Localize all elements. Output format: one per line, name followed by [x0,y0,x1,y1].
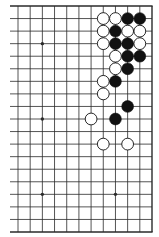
star-point [41,193,44,196]
black-stone [122,38,134,50]
black-stone [110,25,122,37]
go-board [0,0,159,237]
star-point [114,193,117,196]
black-stone [134,13,146,25]
black-stone [110,113,122,125]
white-stone [134,25,146,37]
white-stone [97,138,109,150]
white-stone [110,13,122,25]
white-stone [97,38,109,50]
star-point [41,117,44,120]
black-stone [122,50,134,62]
white-stone [134,38,146,50]
black-stone [122,101,134,113]
white-stone [97,88,109,100]
white-stone [110,50,122,62]
white-stone [97,25,109,37]
white-stone [110,63,122,75]
white-stone [97,75,109,87]
black-stone [134,50,146,62]
black-stone [122,63,134,75]
black-stone [122,13,134,25]
black-stone [110,38,122,50]
white-stone [97,13,109,25]
white-stone [122,138,134,150]
star-point [41,42,44,45]
white-stone [85,113,97,125]
black-stone [110,75,122,87]
white-stone [122,25,134,37]
